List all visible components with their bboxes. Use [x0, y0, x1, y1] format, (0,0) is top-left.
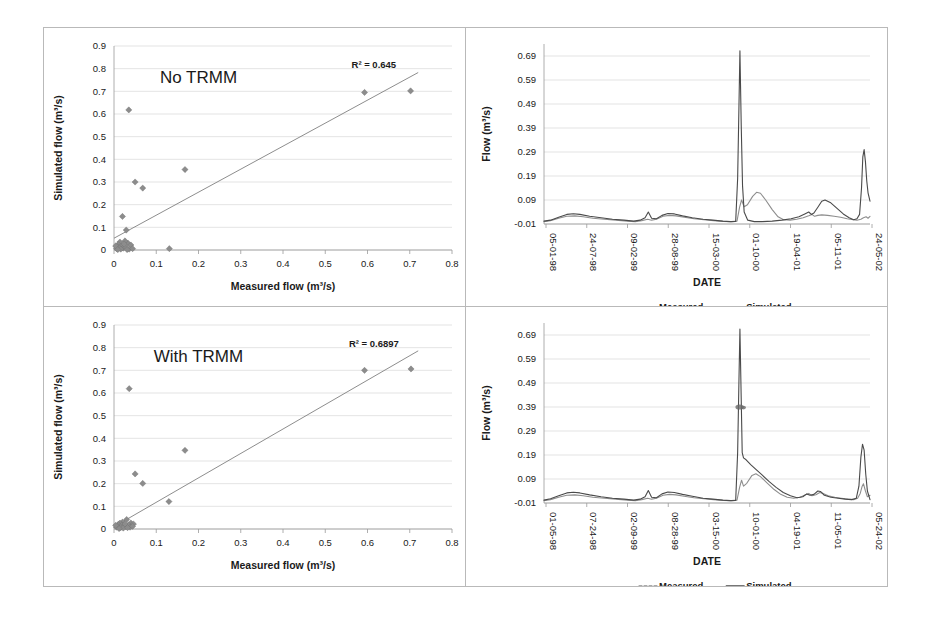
x-tick-label: 01-05-98	[547, 512, 558, 550]
x-tick-label: 24-07-98	[588, 233, 599, 271]
data-point-marker	[126, 107, 132, 113]
x-tick-label: 0	[111, 258, 116, 269]
panel-scatter-no-trmm: 00.10.20.30.40.50.60.70.80.900.10.20.30.…	[44, 28, 466, 307]
x-tick-label: 0.7	[403, 258, 416, 269]
data-point-marker	[119, 213, 125, 219]
x-tick-label: 01-10-00	[751, 233, 762, 271]
y-tick-label: -0.01	[514, 218, 536, 229]
x-tick-label: 0.6	[361, 537, 374, 548]
scatter-chart-no-trmm: 00.10.20.30.40.50.60.70.80.900.10.20.30.…	[44, 28, 466, 307]
x-tick-label: 0.3	[234, 258, 247, 269]
x-tick-label: 05-01-98	[547, 233, 558, 271]
y-tick-label: 0.09	[517, 194, 536, 205]
data-point-marker	[361, 89, 367, 95]
x-tick-label: 24-05-02	[873, 233, 884, 271]
y-tick-label: 0.59	[517, 74, 536, 85]
x-tick-label: 0.7	[403, 537, 416, 548]
x-tick-label: 0.4	[276, 258, 289, 269]
panel-title-note: No TRMM	[160, 68, 237, 87]
y-tick-label: 0.49	[517, 377, 536, 388]
panel-grid: 00.10.20.30.40.50.60.70.80.900.10.20.30.…	[43, 27, 888, 587]
series-line-simulated	[544, 329, 870, 501]
y-tick-label: 0.39	[517, 122, 536, 133]
series-line-simulated	[544, 51, 870, 222]
data-point-marker	[408, 366, 414, 372]
y-tick-label: 0.6	[93, 108, 106, 119]
x-tick-label: 0.5	[319, 537, 332, 548]
x-tick-label: 10-01-00	[751, 512, 762, 550]
figure-root: 00.10.20.30.40.50.60.70.80.900.10.20.30.…	[0, 0, 931, 642]
data-point-marker	[132, 471, 138, 477]
x-tick-label: 0.8	[445, 258, 458, 269]
y-tick-label: 0.8	[93, 342, 106, 353]
series-line-measured	[544, 474, 870, 501]
legend-label-simulated: Simulated	[746, 580, 792, 586]
y-tick-label: 0.2	[93, 199, 106, 210]
y-tick-label: 0.6	[93, 387, 106, 398]
x-tick-label: 0.6	[361, 258, 374, 269]
data-point-marker	[182, 447, 188, 453]
y-tick-label: 0.59	[517, 353, 536, 364]
data-point-marker	[182, 166, 188, 172]
y-tick-label: 0.4	[93, 433, 106, 444]
y-tick-label: 0.9	[93, 40, 106, 51]
y-tick-label: 0.09	[517, 473, 536, 484]
x-tick-label: 28-08-99	[669, 233, 680, 271]
panel-scatter-with-trmm: 00.10.20.30.40.50.60.70.80.900.10.20.30.…	[44, 307, 466, 586]
x-tick-label: 0.5	[319, 258, 332, 269]
x-tick-label: 07-24-98	[588, 512, 599, 550]
x-tick-label: 0	[111, 537, 116, 548]
y-tick-label: 0.49	[517, 98, 536, 109]
y-axis-title: Simulated flow (m³/s)	[52, 95, 64, 201]
panel-timeseries-no-trmm: -0.010.090.190.290.390.490.590.6905-01-9…	[466, 28, 888, 307]
x-axis-title: Measured flow (m³/s)	[231, 559, 335, 571]
x-tick-label: 04-19-01	[792, 512, 803, 550]
y-tick-label: 0.69	[517, 50, 536, 61]
x-tick-label: 0.8	[445, 537, 458, 548]
data-point-marker	[166, 246, 172, 252]
data-point-marker	[140, 480, 146, 486]
x-tick-label: 08-28-99	[669, 512, 680, 550]
x-tick-label: 09-02-99	[629, 233, 640, 271]
x-axis-title: Measured flow (m³/s)	[231, 280, 335, 292]
y-tick-label: 0	[101, 523, 106, 534]
y-tick-label: 0.29	[517, 146, 536, 157]
x-tick-label: 05-11-01	[832, 233, 843, 270]
trendline	[114, 351, 418, 527]
r-squared-annotation: R² = 0.6897	[349, 338, 399, 349]
x-tick-label: 0.2	[192, 537, 205, 548]
y-tick-label: 0.3	[93, 455, 106, 466]
x-axis-title: DATE	[693, 555, 721, 567]
scan-artifact	[741, 406, 746, 410]
x-tick-label: 0.1	[150, 537, 163, 548]
trendline	[114, 73, 418, 239]
timeseries-chart-with-trmm: -0.010.090.190.290.390.490.590.6901-05-9…	[466, 307, 887, 586]
x-tick-label: 02-09-99	[629, 512, 640, 550]
y-tick-label: 0.3	[93, 176, 106, 187]
x-tick-label: 0.2	[192, 258, 205, 269]
x-tick-label: 0.3	[234, 537, 247, 548]
y-tick-label: 0.8	[93, 63, 106, 74]
panel-title-note: With TRMM	[154, 347, 243, 366]
y-tick-label: 0.5	[93, 410, 106, 421]
y-tick-label: 0.39	[517, 401, 536, 412]
x-tick-label: 03-15-00	[710, 512, 721, 550]
y-tick-label: 0.7	[93, 365, 106, 376]
x-tick-label: 19-04-01	[792, 233, 803, 271]
y-tick-label: 0.1	[93, 501, 106, 512]
data-point-marker	[407, 88, 413, 94]
x-tick-label: 11-05-01	[832, 512, 843, 549]
y-axis-title: Simulated flow (m³/s)	[52, 374, 64, 480]
x-tick-label: 15-03-00	[710, 233, 721, 271]
y-tick-label: 0.1	[93, 222, 106, 233]
x-tick-label: 05-24-02	[873, 512, 884, 550]
x-axis-title: DATE	[693, 276, 721, 288]
y-tick-label: 0.69	[517, 329, 536, 340]
data-point-marker	[132, 179, 138, 185]
y-tick-label: 0	[101, 244, 106, 255]
y-axis-title: Flow (m³/s)	[480, 385, 492, 440]
data-point-marker	[166, 498, 172, 504]
scatter-chart-with-trmm: 00.10.20.30.40.50.60.70.80.900.10.20.30.…	[44, 307, 466, 586]
y-tick-label: 0.4	[93, 154, 106, 165]
y-tick-label: -0.01	[514, 497, 536, 508]
